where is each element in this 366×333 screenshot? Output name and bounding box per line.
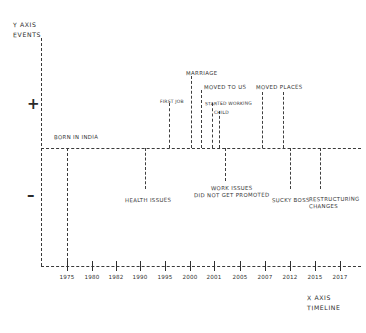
event-stem-health-issues xyxy=(145,148,146,189)
axis-tick xyxy=(92,261,93,271)
event-stem-sucky-boss xyxy=(290,148,291,189)
positive-sign: + xyxy=(27,97,40,112)
x-tick-label-2000: 2000 xyxy=(177,274,203,280)
x-tick-label-1980: 1980 xyxy=(79,274,105,280)
axis-tick xyxy=(165,261,166,271)
axis-tick xyxy=(290,261,291,271)
axis-tick xyxy=(214,261,215,271)
event-stem-child xyxy=(219,111,220,148)
event-label-work-issues: WORK ISSUES DID NOT GET PROMOTED xyxy=(194,185,270,200)
y-axis-title: Y AXIS EVENTS xyxy=(13,20,41,39)
event-label-restructuring: RESTRUCTURING CHANGES xyxy=(309,196,360,211)
event-stem-moved-places-2 xyxy=(283,92,284,148)
event-stem-work-issues xyxy=(225,148,226,181)
event-stem-first-job xyxy=(169,103,170,148)
event-stem-moved-to-us xyxy=(201,90,202,148)
event-label-moved-places: MOVED PLACES xyxy=(256,84,303,91)
event-label-moved-to-us: MOVED TO US xyxy=(204,84,246,91)
x-tick-label-2001: 2001 xyxy=(201,274,227,280)
origin-connector xyxy=(67,148,68,266)
x-tick-label-2005: 2005 xyxy=(227,274,253,280)
x-tick-label-1982: 1982 xyxy=(103,274,129,280)
axis-tick xyxy=(265,261,266,271)
axis-tick xyxy=(67,261,68,271)
x-axis-line xyxy=(41,266,361,267)
axis-tick xyxy=(190,261,191,271)
event-label-first-job: FIRST JOB xyxy=(160,98,184,105)
x-tick-label-1975: 1975 xyxy=(54,274,80,280)
x-tick-label-1990: 1990 xyxy=(127,274,153,280)
x-axis-title: X AXIS TIMELINE xyxy=(307,293,341,312)
x-tick-label-2015: 2015 xyxy=(302,274,328,280)
timeline-chart: Y AXIS EVENTS X AXIS TIMELINE + – 1975 1… xyxy=(0,0,366,333)
event-stem-marriage xyxy=(191,76,192,148)
event-label-born-in-india: BORN IN INDIA xyxy=(54,134,98,141)
x-tick-label-2007: 2007 xyxy=(252,274,278,280)
axis-tick xyxy=(340,261,341,271)
x-tick-label-2012: 2012 xyxy=(277,274,303,280)
axis-tick xyxy=(315,261,316,271)
event-stem-started-working xyxy=(212,103,213,148)
axis-tick xyxy=(116,261,117,271)
event-label-started-working: STARTED WORKING xyxy=(205,100,252,107)
y-axis-line xyxy=(41,38,42,266)
axis-tick xyxy=(140,261,141,271)
event-stem-restructuring xyxy=(320,148,321,189)
zero-baseline xyxy=(41,148,361,149)
event-label-sucky-boss: SUCKY BOSS xyxy=(272,197,310,204)
x-tick-label-1995: 1995 xyxy=(152,274,178,280)
event-label-child: CHILD xyxy=(214,109,229,116)
event-stem-moved-places xyxy=(262,92,263,148)
negative-sign: – xyxy=(27,188,35,203)
event-label-health-issues: HEALTH ISSUES xyxy=(125,197,171,204)
event-label-marriage: MARRIAGE xyxy=(186,70,217,77)
x-tick-label-2017: 2017 xyxy=(327,274,353,280)
axis-tick xyxy=(240,261,241,271)
